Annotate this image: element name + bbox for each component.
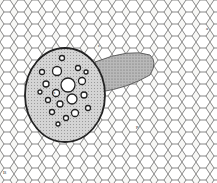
cell-drawing [0,0,217,183]
figure-label: x [53,90,56,95]
botanical-illustration: B a c p x [0,0,217,183]
vascular-bundle [25,48,105,142]
figure-label: c [98,43,100,48]
figure-label: p [136,124,139,129]
figure-label: a [206,26,208,31]
figure-label: B [3,170,6,175]
